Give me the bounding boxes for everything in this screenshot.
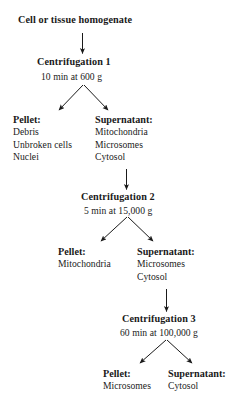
- centrifugation-1-pellet-label: Pellet:: [13, 114, 72, 126]
- arrow-centrifugation-3-to-supernatant: [167, 340, 192, 363]
- centrifugation-1-header: Centrifugation 1: [37, 57, 111, 67]
- centrifugation-3-conditions: 60 min at 100,000 g: [120, 328, 198, 338]
- arrow-centrifugation-1-to-supernatant: [84, 85, 108, 110]
- arrow-centrifugation-3-to-pellet: [140, 340, 166, 363]
- centrifugation-3-header: Centrifugation 3: [122, 314, 196, 324]
- centrifugation-3-supernatant-item-0: Cytosol: [168, 380, 226, 392]
- centrifugation-3-supernatant-group: Supernatant: Cytosol: [168, 368, 226, 393]
- centrifugation-2-pellet-item-0: Mitochondria: [58, 258, 111, 270]
- centrifugation-2-conditions: 5 min at 15,000 g: [84, 206, 152, 216]
- centrifugation-1-supernatant-group: Supernatant: Mitochondria Microsomes Cyt…: [95, 114, 153, 164]
- arrow-centrifugation-1-to-pellet: [59, 85, 83, 110]
- arrow-centrifugation-2-to-supernatant: [128, 217, 153, 241]
- centrifugation-3-pellet-group: Pellet: Microsomes: [103, 368, 151, 393]
- centrifugation-1-supernatant-item-0: Mitochondria: [95, 126, 153, 138]
- centrifugation-2-supernatant-group: Supernatant: Microsomes Cytosol: [137, 246, 195, 283]
- centrifugation-2-supernatant-item-0: Microsomes: [137, 258, 195, 270]
- start-node-homogenate: Cell or tissue homogenate: [18, 15, 132, 25]
- centrifugation-1-pellet-item-2: Nuclei: [13, 151, 72, 163]
- centrifugation-2-header: Centrifugation 2: [81, 192, 155, 202]
- centrifugation-2-supernatant-label: Supernatant:: [137, 246, 195, 258]
- centrifugation-2-supernatant-item-1: Cytosol: [137, 271, 195, 283]
- centrifugation-1-supernatant-item-1: Microsomes: [95, 139, 153, 151]
- centrifugation-1-pellet-item-1: Unbroken cells: [13, 139, 72, 151]
- centrifugation-1-pellet-group: Pellet: Debris Unbroken cells Nuclei: [13, 114, 72, 164]
- centrifugation-2-pellet-group: Pellet: Mitochondria: [58, 246, 111, 271]
- centrifugation-3-pellet-label: Pellet:: [103, 368, 151, 380]
- centrifugation-3-pellet-item-0: Microsomes: [103, 380, 151, 392]
- centrifugation-1-supernatant-item-2: Cytosol: [95, 151, 153, 163]
- centrifugation-1-pellet-item-0: Debris: [13, 126, 72, 138]
- centrifugation-1-conditions: 10 min at 600 g: [41, 72, 102, 82]
- centrifugation-flowchart-diagram: Cell or tissue homogenate Centrifugation…: [0, 0, 241, 411]
- centrifugation-1-supernatant-label: Supernatant:: [95, 114, 153, 126]
- centrifugation-3-supernatant-label: Supernatant:: [168, 368, 226, 380]
- centrifugation-2-pellet-label: Pellet:: [58, 246, 111, 258]
- arrow-centrifugation-2-to-pellet: [101, 217, 127, 241]
